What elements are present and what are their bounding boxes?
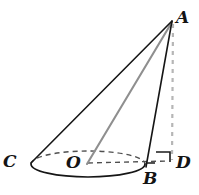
geometry-figure: A C O B D [0, 0, 199, 195]
height-segment-AD [172, 24, 173, 160]
radius-segment-OD [88, 161, 168, 163]
vertex-label-d: D [176, 154, 191, 171]
base-ellipse-front-arc [31, 164, 145, 177]
vertex-label-o: O [66, 154, 81, 171]
vertex-label-c: C [3, 153, 17, 170]
vertex-label-a: A [176, 9, 189, 26]
vertex-label-b: B [143, 170, 157, 187]
cone-diagram-svg [0, 0, 199, 195]
